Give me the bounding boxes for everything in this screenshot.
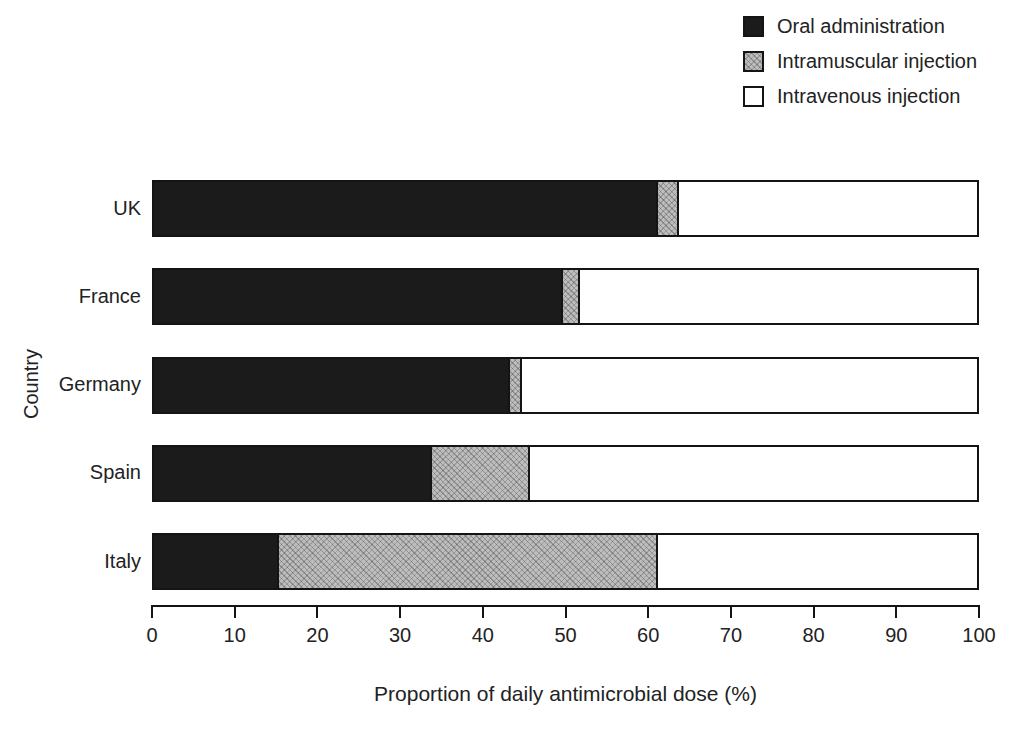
x-tick-label: 30 <box>370 624 430 647</box>
bar-segment-plain-white <box>578 270 977 323</box>
chart-legend: Oral administrationIntramuscular injecti… <box>743 14 977 119</box>
bar-row <box>152 445 979 502</box>
bar-segment-hatch-gray <box>656 182 677 235</box>
x-tick <box>234 607 236 618</box>
category-label: UK <box>0 197 141 220</box>
x-tick-label: 10 <box>205 624 265 647</box>
x-tick <box>895 607 897 618</box>
category-label: Germany <box>0 373 141 396</box>
x-tick <box>482 607 484 618</box>
x-tick <box>565 607 567 618</box>
legend-swatch-icon <box>743 16 764 37</box>
x-tick <box>316 607 318 618</box>
legend-label: Oral administration <box>777 15 945 38</box>
category-label: Italy <box>0 550 141 573</box>
x-tick-label: 60 <box>618 624 678 647</box>
bar-row <box>152 533 979 590</box>
x-tick-label: 50 <box>536 624 596 647</box>
legend-item: Intramuscular injection <box>743 49 977 73</box>
bar-segment-solid-black <box>154 535 277 588</box>
bar-segment-hatch-gray <box>430 447 529 500</box>
x-tick-label: 0 <box>122 624 182 647</box>
x-tick <box>399 607 401 618</box>
bar-segment-solid-black <box>154 182 656 235</box>
legend-swatch-icon <box>743 51 764 72</box>
bar-row <box>152 357 979 414</box>
x-axis-line <box>151 605 980 607</box>
bar-segment-solid-black <box>154 270 561 323</box>
x-tick-label: 40 <box>453 624 513 647</box>
legend-label: Intravenous injection <box>777 85 960 108</box>
bar-segment-solid-black <box>154 359 508 412</box>
bar-segment-plain-white <box>528 447 977 500</box>
x-tick-label: 20 <box>287 624 347 647</box>
bar-segment-plain-white <box>677 182 977 235</box>
x-axis-title: Proportion of daily antimicrobial dose (… <box>152 682 979 706</box>
category-label: France <box>0 285 141 308</box>
category-label: Spain <box>0 461 141 484</box>
x-tick <box>813 607 815 618</box>
bar-row <box>152 268 979 325</box>
x-tick-label: 70 <box>701 624 761 647</box>
x-tick <box>647 607 649 618</box>
x-tick-label: 90 <box>866 624 926 647</box>
x-tick <box>978 607 980 618</box>
bar-segment-plain-white <box>656 535 977 588</box>
legend-swatch-icon <box>743 86 764 107</box>
x-tick <box>151 607 153 618</box>
x-tick-label: 100 <box>949 624 1009 647</box>
legend-label: Intramuscular injection <box>777 50 977 73</box>
bar-segment-plain-white <box>520 359 977 412</box>
x-tick-label: 80 <box>784 624 844 647</box>
stacked-bar-chart-figure: Oral administrationIntramuscular injecti… <box>0 0 1011 731</box>
legend-item: Intravenous injection <box>743 84 977 108</box>
bar-row <box>152 180 979 237</box>
bar-segment-hatch-gray <box>508 359 520 412</box>
x-tick <box>730 607 732 618</box>
bar-segment-hatch-gray <box>277 535 656 588</box>
bar-segment-hatch-gray <box>561 270 577 323</box>
bar-segment-solid-black <box>154 447 430 500</box>
legend-item: Oral administration <box>743 14 977 38</box>
